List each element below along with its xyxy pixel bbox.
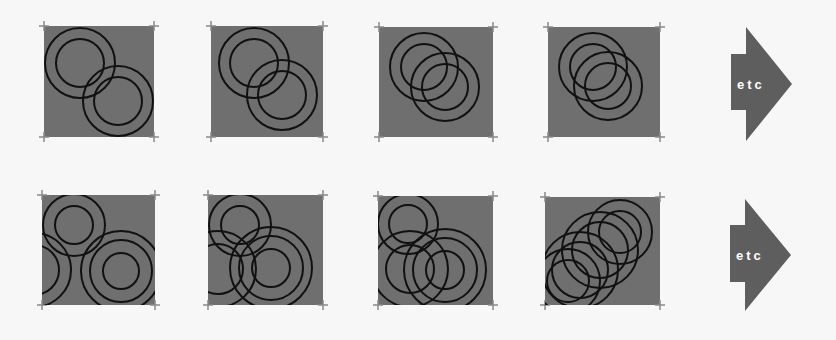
circle-panel [180,190,328,310]
circle-panel [372,191,498,311]
etc-label: etc [737,77,765,92]
diagram-canvas: etcetc [0,0,836,340]
circle-panel [543,22,665,142]
panel-square [44,26,154,137]
row-1: etc [39,21,792,142]
circle-panel [536,192,665,313]
circle-panel [374,22,498,142]
etc-arrow: etc [731,27,792,141]
circle-panel [0,190,161,311]
diagram-rows: etcetc [0,21,792,313]
etc-label: etc [736,248,764,263]
etc-arrow: etc [730,199,791,311]
circle-panel [39,21,159,142]
row-2: etc [0,190,791,313]
circle-panel [206,21,328,142]
